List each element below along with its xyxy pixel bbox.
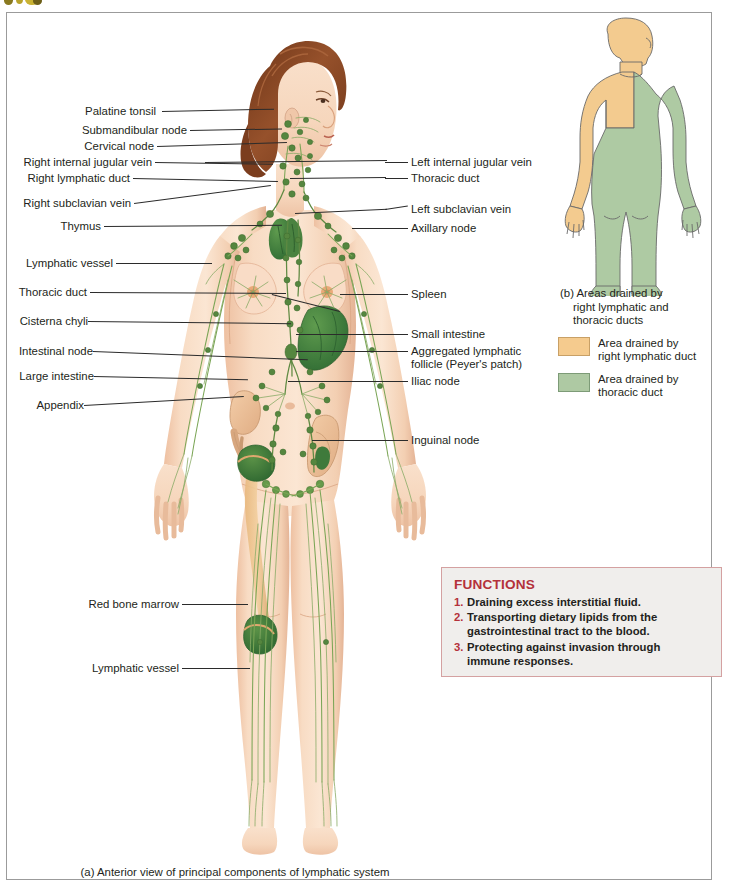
functions-title: FUNCTIONS (454, 577, 711, 592)
label-submandibular-node: Submandibular node (82, 124, 187, 137)
leader-left-internal-jugular-vein (385, 162, 408, 163)
functions-item-3-number: 3. (454, 640, 467, 668)
legend-text-thoracic-duct: Area drained by thoracic duct (598, 373, 678, 400)
label-lymphatic-vessel-leg: Lymphatic vessel (92, 662, 179, 675)
label-left-internal-jugular-vein: Left internal jugular vein (411, 156, 532, 169)
figure-caption-a: (a) Anterior view of principal component… (0, 866, 470, 878)
leader-red-bone-marrow (182, 604, 248, 605)
label-appendix: Appendix (37, 399, 85, 412)
functions-item-3: 3. Protecting against invasion through i… (454, 640, 711, 668)
label-cervical-node: Cervical node (84, 140, 154, 153)
legend-swatch-orange-icon (558, 337, 590, 356)
label-lymphatic-vessel-arm: Lymphatic vessel (26, 257, 113, 270)
label-large-intestine: Large intestine (19, 370, 94, 383)
label-thymus: Thymus (60, 220, 101, 233)
panel-b-caption: (b) Areas drained by right lymphatic and… (560, 287, 710, 328)
label-right-internal-jugular-vein: Right internal jugular vein (23, 156, 152, 169)
label-intestinal-node: Intestinal node (19, 345, 93, 358)
page-artifact (0, 0, 60, 10)
label-small-intestine: Small intestine (411, 328, 485, 341)
leader-aggregated-lymphatic-follicle (296, 351, 408, 352)
functions-item-3-line1: Protecting against invasion through (467, 641, 660, 653)
legend-item-right-lymphatic-duct: Area drained by right lymphatic duct (558, 337, 718, 364)
functions-item-1: 1. Draining excess interstitial fluid. (454, 595, 711, 609)
legend-orange-line2: right lymphatic duct (598, 350, 696, 362)
panel-b-caption-line1: (b) Areas drained by (560, 287, 663, 299)
label-right-lymphatic-duct: Right lymphatic duct (27, 172, 130, 185)
functions-item-1-number: 1. (454, 595, 467, 609)
leader-lymphatic-vessel-arm (116, 263, 212, 264)
functions-item-2-text: Transporting dietary lipids from the gas… (467, 610, 711, 638)
functions-item-2-line1: Transporting dietary lipids from the (467, 611, 657, 623)
leader-inguinal-node (312, 440, 408, 441)
functions-item-2-line2: gastrointestinal tract to the blood. (467, 625, 650, 637)
label-inguinal-node: Inguinal node (411, 434, 479, 447)
leader-small-intestine (296, 334, 408, 335)
functions-box: FUNCTIONS 1. Draining excess interstitia… (441, 567, 722, 677)
label-palatine-tonsil: Palatine tonsil (85, 105, 156, 118)
leader-thoracic-duct-right (385, 178, 408, 179)
leader-lymphatic-vessel-leg (182, 668, 250, 669)
figure-root: .vv{fill:none;stroke:#7aa555;stroke-widt… (0, 0, 732, 895)
label-thoracic-duct-right: Thoracic duct (411, 172, 479, 185)
label-right-subclavian-vein: Right subclavian vein (23, 197, 131, 210)
legend-green-line2: thoracic duct (598, 386, 663, 398)
leader-iliac-node (288, 381, 408, 382)
functions-item-3-line2: immune responses. (467, 655, 573, 667)
label-axillary-node: Axillary node (411, 222, 476, 235)
drainage-legend: Area drained by right lymphatic duct Are… (558, 337, 718, 409)
legend-swatch-green-icon (558, 373, 590, 392)
label-aggregated-lymphatic-follicle: Aggregated lymphatic follicle (Peyer's p… (411, 345, 531, 370)
label-red-bone-marrow: Red bone marrow (88, 598, 179, 611)
legend-green-line1: Area drained by (598, 373, 678, 385)
label-aggregated-lymphatic-follicle-line1: Aggregated lymphatic (411, 345, 521, 357)
legend-orange-line1: Area drained by (598, 337, 678, 349)
label-cisterna-chyli: Cisterna chyli (20, 315, 88, 328)
leader-axillary-node (352, 228, 408, 229)
panel-b-caption-line3: thoracic ducts (560, 314, 710, 328)
functions-item-3-text: Protecting against invasion through immu… (467, 640, 711, 668)
legend-item-thoracic-duct: Area drained by thoracic duct (558, 373, 718, 400)
panel-b-caption-line2: right lymphatic and (560, 301, 710, 315)
label-aggregated-lymphatic-follicle-line2: follicle (Peyer's patch) (411, 358, 522, 370)
functions-item-2-number: 2. (454, 610, 467, 638)
label-left-subclavian-vein: Left subclavian vein (411, 203, 511, 216)
functions-item-1-text: Draining excess interstitial fluid. (467, 595, 711, 609)
label-spleen: Spleen (411, 288, 446, 301)
functions-item-2: 2. Transporting dietary lipids from the … (454, 610, 711, 638)
label-thoracic-duct-left: Thoracic duct (19, 286, 87, 299)
legend-text-right-lymphatic-duct: Area drained by right lymphatic duct (598, 337, 696, 364)
label-iliac-node: Iliac node (411, 375, 460, 388)
functions-list: 1. Draining excess interstitial fluid. 2… (454, 595, 711, 668)
leader-spleen (340, 294, 408, 295)
